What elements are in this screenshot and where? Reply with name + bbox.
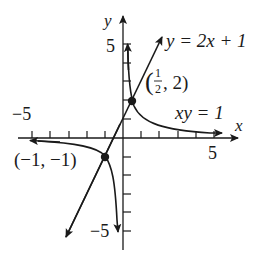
svg-text:(: ( [145,67,154,96]
point-b-label: (−1, −1) [14,149,77,171]
svg-text:1: 1 [155,66,161,80]
svg-text:2: 2 [155,82,161,96]
y-axis-label: y [102,11,112,30]
x-axis-label: x [234,116,243,135]
point-a-label: ( 1 2 , 2) [145,66,188,96]
x-max-label: 5 [208,143,217,163]
graph-canvas: y 5 y = 2x + 1 ( 1 2 , 2) −5 xy = 1 x 5 … [0,0,258,259]
svg-text:, 2): , 2) [163,72,188,94]
line-equation-label: y = 2x + 1 [164,30,247,51]
intersection-point-half-2 [128,97,136,105]
intersection-point-neg1-neg1 [101,153,109,161]
hyperbola-branch-positive-top [128,44,129,70]
x-min-label: −5 [12,104,31,124]
y-max-label: 5 [106,36,115,56]
hyperbola-branch-negative-left [30,141,60,143]
curve-equation-label: xy = 1 [174,102,224,123]
y-min-label: −5 [90,221,109,241]
